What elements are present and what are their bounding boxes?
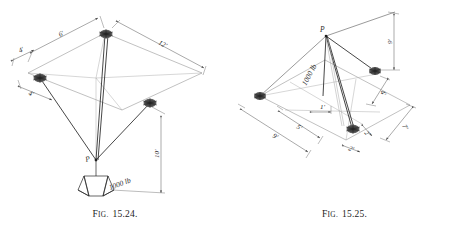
figure-15-24: P 6' 4' [0, 0, 230, 227]
load-bucket [78, 160, 114, 196]
dim-4ft-label: 4' [378, 89, 388, 98]
dim-4ft-lower-label: 4' [27, 89, 35, 98]
figure-15-25-caption: FIG. 15.25. [230, 203, 459, 221]
figure-15-24-caption: FIG. 15.24. [0, 203, 230, 221]
dim-9ft-left-run-label: 9' [271, 132, 280, 142]
dim-12ft [112, 20, 206, 75]
dim-10ft-label: 10' [153, 149, 161, 158]
anchor-right [369, 67, 381, 75]
dim-9ft-vertical-label: 9' [386, 39, 394, 45]
dim-6ft [28, 16, 104, 62]
dim-4ft-upper-label: 4' [17, 45, 26, 55]
figure-page: P 6' 4' [0, 0, 459, 227]
caption-prefix: FIG. [322, 209, 338, 219]
dim-4ft-lower [18, 80, 52, 100]
figure-15-25-drawing: P 1000 lb 9' 9' 5' [230, 0, 459, 200]
anchor-left [33, 73, 47, 83]
anchor-top [99, 29, 113, 39]
point-p-label: P [319, 25, 325, 34]
load-label: 1000 lb [108, 176, 133, 192]
point-p-marker [325, 35, 328, 38]
cable-lines [40, 35, 150, 160]
point-p-label: P [83, 154, 91, 164]
anchor-center [346, 124, 360, 134]
dim-7ft [380, 104, 416, 142]
caption-number: 15.25. [342, 209, 367, 219]
load-label: 1000 lb [300, 62, 319, 86]
cable-lines [323, 36, 375, 128]
caption-number: 15.24. [113, 209, 138, 219]
figure-15-24-drawing: P 6' 4' [0, 0, 230, 200]
anchor-left [254, 92, 266, 100]
dim-6ft-label: 6' [57, 29, 66, 39]
figure-15-25: P 1000 lb 9' 9' 5' [230, 0, 459, 227]
dim-5ft-label: 5' [295, 123, 304, 133]
dim-7ft-label: 7' [400, 123, 410, 132]
ground-plane [260, 60, 410, 140]
dim-1ft-label: 1' [320, 103, 326, 111]
dim-2ft-b-label: 2' [347, 144, 355, 153]
caption-prefix: FIG. [93, 209, 109, 219]
